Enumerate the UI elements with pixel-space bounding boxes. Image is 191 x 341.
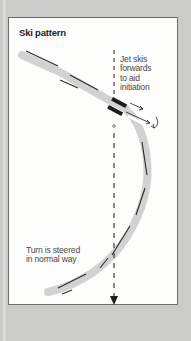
arrow-down-icon — [110, 296, 118, 305]
fall-line — [110, 50, 118, 305]
turn-annotation: Turn is steered in normal way — [26, 246, 106, 265]
ski-pattern-illustration — [0, 0, 191, 341]
turn-line-2: in normal way — [26, 255, 106, 264]
jet-line-4: initiation — [120, 83, 180, 92]
jet-annotation: Jet skis forwards to aid initiation — [120, 55, 180, 93]
